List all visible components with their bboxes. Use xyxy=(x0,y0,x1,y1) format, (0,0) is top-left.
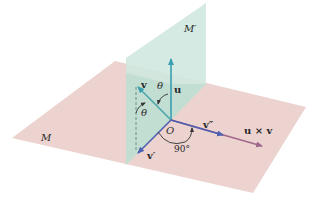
label-theta-vvp: θ xyxy=(141,107,147,118)
label-theta-uv: θ xyxy=(157,80,163,91)
label-origin: O xyxy=(166,125,174,136)
label-plane-m-prime: M′ xyxy=(183,23,197,34)
label-vector-v: v xyxy=(140,79,148,90)
label-vector-v-prime: v′ xyxy=(146,150,156,161)
label-vector-v-double-prime: v″ xyxy=(202,119,214,130)
label-right-angle: 90° xyxy=(174,144,190,154)
cross-product-diagram: M′ M u v θ θ O v″ u × v 90° v′ xyxy=(0,0,319,207)
label-plane-m: M xyxy=(40,132,52,143)
label-vector-u-cross-v: u × v xyxy=(244,125,274,136)
label-vector-u: u xyxy=(174,84,181,95)
